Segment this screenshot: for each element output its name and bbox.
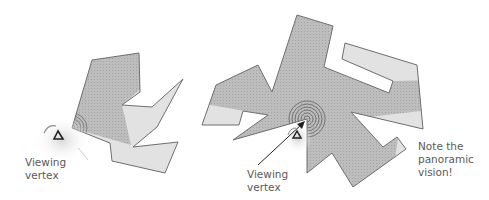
- right-viewing-vertex-label: Viewing vertex: [247, 168, 288, 194]
- note-line: vision!: [418, 166, 474, 179]
- label-line: Viewing: [247, 168, 288, 181]
- left-viewing-vertex-label: Viewing vertex: [25, 156, 66, 182]
- note-line: panoramic: [418, 153, 474, 166]
- note-line: Note the: [418, 140, 474, 153]
- panoramic-note: Note the panoramic vision!: [418, 140, 474, 179]
- right-polygon-figure: [195, 10, 435, 195]
- label-line: Viewing: [25, 156, 66, 169]
- label-line: vertex: [25, 169, 66, 182]
- face-illustration-right: [284, 122, 312, 154]
- label-line: vertex: [247, 181, 288, 194]
- polygon-visibility-diagram: [0, 0, 489, 200]
